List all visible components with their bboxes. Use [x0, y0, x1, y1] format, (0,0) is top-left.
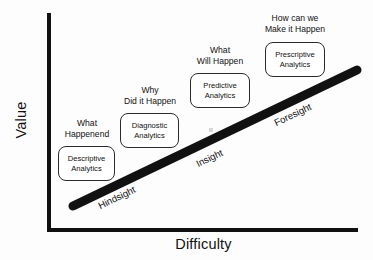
- stage-box-line: Analytics: [71, 164, 101, 174]
- insight-marker-icon: [209, 128, 213, 132]
- stage-caption-descriptive: What Happenend: [55, 118, 119, 139]
- stage-caption-prescriptive: How can we Make it Happen: [256, 13, 334, 34]
- stage-box-line: Descriptive: [68, 154, 106, 164]
- stage-caption-line: What: [186, 45, 254, 56]
- stage-caption-predictive: What Will Happen: [186, 45, 254, 66]
- stage-caption-line: How can we: [256, 13, 334, 24]
- stage-caption-line: Happenend: [55, 129, 119, 140]
- stage-box-descriptive[interactable]: Descriptive Analytics: [58, 146, 115, 181]
- stage-caption-diagnostic: Why Did it Happen: [113, 85, 187, 106]
- stage-caption-line: Make it Happen: [256, 24, 334, 35]
- stage-box-line: Predictive: [203, 81, 236, 91]
- y-axis-label: Value: [13, 90, 29, 150]
- stage-box-prescriptive[interactable]: Prescriptive Analytics: [265, 42, 325, 77]
- stage-box-predictive[interactable]: Predictive Analytics: [190, 73, 250, 108]
- stage-box-line: Prescriptive: [275, 50, 315, 60]
- stage-box-diagnostic[interactable]: Diagnostic Analytics: [120, 113, 179, 148]
- stage-box-line: Analytics: [280, 60, 310, 70]
- stage-caption-line: Will Happen: [186, 56, 254, 67]
- stage-caption-line: Did it Happen: [113, 96, 187, 107]
- stage-box-line: Analytics: [205, 91, 235, 101]
- analytics-maturity-diagram: Value Difficulty What Happenend Descript…: [0, 0, 373, 260]
- stage-caption-line: Why: [113, 85, 187, 96]
- stage-caption-line: What: [55, 118, 119, 129]
- stage-box-line: Analytics: [134, 131, 164, 141]
- stage-box-line: Diagnostic: [132, 121, 167, 131]
- x-axis-label: Difficulty: [0, 236, 373, 252]
